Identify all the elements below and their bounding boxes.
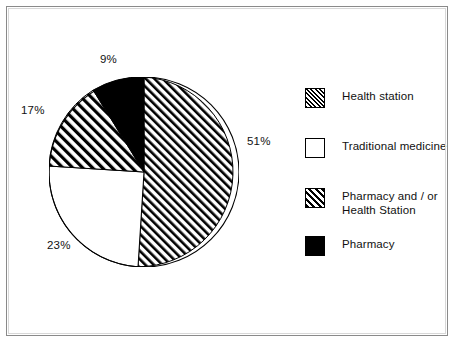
pie-label-health-station: 51% <box>247 135 271 147</box>
pie-label-traditional-medicine: 23% <box>47 239 71 251</box>
pie-chart <box>49 77 239 267</box>
legend-item-traditional-medicine: Traditional medicine <box>305 137 446 158</box>
legend-item-pharmacy-and-or-health-station: Pharmacy and / or Health Station <box>305 187 438 217</box>
legend-label-pharmacy: Pharmacy <box>342 235 395 252</box>
legend-swatch-coarse-hatch-icon <box>305 188 325 208</box>
legend-label-pharmacy-and-or-health-station: Pharmacy and / or Health Station <box>342 187 438 217</box>
legend-label-health-station: Health station <box>342 87 414 104</box>
pie-chart-svg <box>49 77 239 267</box>
pie-label-pharmacy-and-or-health-station: 17% <box>21 104 45 116</box>
legend-swatch-fine-hatch-icon <box>305 88 325 108</box>
legend-swatch-solid-black-icon <box>305 236 325 256</box>
pie-label-pharmacy: 9% <box>100 53 117 65</box>
legend-item-health-station: Health station <box>305 87 414 108</box>
legend-item-pharmacy: Pharmacy <box>305 235 395 256</box>
legend-label-traditional-medicine: Traditional medicine <box>342 137 446 154</box>
chart-frame-border: 9% 17% 23% 51% Health station Traditiona… <box>6 6 448 336</box>
pie-slice-traditional-medicine <box>49 166 144 267</box>
pie-slice-health-station <box>138 77 233 267</box>
chart-page: 9% 17% 23% 51% Health station Traditiona… <box>0 0 456 344</box>
legend-swatch-white-icon <box>305 138 325 158</box>
